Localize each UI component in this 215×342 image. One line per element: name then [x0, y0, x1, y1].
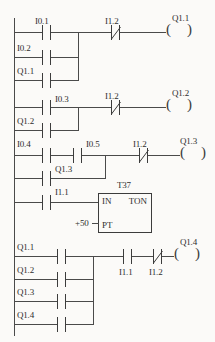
- rung-4-wire: [14, 202, 42, 203]
- contact-i1-2-r1[interactable]: [111, 25, 120, 40]
- rung-1-wire-mid: [51, 32, 111, 33]
- branch-label-q1-3: Q1.3: [55, 165, 72, 174]
- rung-1-branch-1-wire: [14, 57, 42, 58]
- rung-3-branch-wire-r: [51, 178, 106, 179]
- branch-label-q1-4-r5: Q1.4: [17, 311, 34, 320]
- contact-q1-1-r5[interactable]: [57, 249, 66, 264]
- timer-preset-value: +50: [75, 219, 88, 228]
- rung-5-wire-b: [132, 256, 153, 257]
- rung-5-branch-2-wire-r: [66, 279, 94, 280]
- contact-i1-2-r3[interactable]: [139, 148, 148, 163]
- branch-label-q1-2: Q1.2: [17, 117, 34, 126]
- rung-1-wire-out: [120, 32, 166, 33]
- rung-3-wire-a: [51, 155, 73, 156]
- contact-q1-3-r5[interactable]: [57, 294, 66, 309]
- rung-5-branch-2-wire: [14, 279, 57, 280]
- contact-i1-2-r2[interactable]: [111, 100, 120, 115]
- contact-i0-5[interactable]: [73, 148, 82, 163]
- contact-label-i1-2-r5: I1.2: [149, 268, 162, 277]
- contact-q1-2-r2[interactable]: [42, 123, 51, 138]
- rung-3-wire: [14, 155, 42, 156]
- branch-label-q1-1: Q1.1: [17, 67, 34, 76]
- contact-q1-2-r5[interactable]: [57, 272, 66, 287]
- coil-q1-4[interactable]: (): [174, 248, 200, 264]
- rung-5-branch-1-wire-r: [66, 256, 94, 257]
- rung-5-wire-mid: [93, 256, 123, 257]
- timer-name-t37: T37: [117, 181, 131, 190]
- rung-2-wire: [14, 107, 42, 108]
- coil-q1-3[interactable]: (): [180, 147, 206, 163]
- rung-1-branch-join: [78, 32, 79, 80]
- rung-1-branch-2-wire-r: [51, 80, 79, 81]
- rung-1-branch-1-wire-r: [51, 57, 79, 58]
- rung-3-branch-join: [105, 155, 106, 178]
- rung-1-branch-2-wire: [14, 80, 42, 81]
- ladder-diagram-canvas: I0.1 I1.2 Q1.1 () I0.2 Q1.1 I0.3 I1.2: [0, 0, 215, 342]
- coil-q1-2[interactable]: (): [166, 99, 192, 115]
- contact-i0-3[interactable]: [42, 100, 51, 115]
- rung-4-wire-to-timer: [51, 202, 98, 203]
- contact-i0-1[interactable]: [42, 25, 51, 40]
- rung-5-branch-3-wire: [14, 301, 57, 302]
- timer-pt-label: PT: [102, 220, 113, 230]
- timer-block-t37[interactable]: IN TON PT: [98, 193, 152, 233]
- left-power-rail: [14, 18, 15, 336]
- rung-2-branch-join: [78, 107, 79, 130]
- branch-label-q1-3-r5: Q1.3: [17, 288, 34, 297]
- contact-label-i0-4: I0.4: [17, 140, 30, 149]
- rung-2-wire-out: [120, 107, 166, 108]
- branch-label-q1-1-r5: Q1.1: [17, 243, 34, 252]
- rung-3-branch-wire: [14, 178, 42, 179]
- rung-3-wire-out: [148, 155, 180, 156]
- rung-2-wire-mid: [51, 107, 111, 108]
- rung-5-branch-join: [93, 256, 94, 324]
- branch-label-q1-2-r5: Q1.2: [17, 266, 34, 275]
- contact-label-i1-1-timer: I1.1: [55, 188, 68, 197]
- contact-i0-2[interactable]: [42, 50, 51, 65]
- rung-3-wire-mid: [82, 155, 139, 156]
- rung-4-preset-wire: [92, 223, 99, 224]
- contact-q1-4-r5[interactable]: [57, 317, 66, 332]
- rung-5-branch-4-wire-r: [66, 324, 94, 325]
- coil-q1-1[interactable]: (): [166, 24, 192, 40]
- contact-label-i1-1-r5: I1.1: [119, 268, 132, 277]
- rung-5-wire-out: [162, 256, 174, 257]
- rung-5-branch-1-wire: [14, 256, 57, 257]
- contact-i1-1-timer[interactable]: [42, 195, 51, 210]
- branch-label-i0-2: I0.2: [17, 44, 30, 53]
- contact-label-i0-5: I0.5: [86, 140, 99, 149]
- rung-2-branch-wire: [14, 130, 42, 131]
- contact-q1-3-r3[interactable]: [42, 171, 51, 186]
- contact-i1-2-r5[interactable]: [153, 249, 162, 264]
- contact-i1-1-r5[interactable]: [123, 249, 132, 264]
- rung-5-branch-4-wire: [14, 324, 57, 325]
- rung-2-branch-wire-r: [51, 130, 79, 131]
- timer-type-label: TON: [129, 196, 147, 206]
- timer-in-label: IN: [102, 196, 112, 206]
- contact-label-i0-3: I0.3: [55, 95, 68, 104]
- rung-1-wire: [14, 32, 42, 33]
- rung-5-branch-3-wire-r: [66, 301, 94, 302]
- contact-i0-4[interactable]: [42, 148, 51, 163]
- contact-q1-1-r1[interactable]: [42, 73, 51, 88]
